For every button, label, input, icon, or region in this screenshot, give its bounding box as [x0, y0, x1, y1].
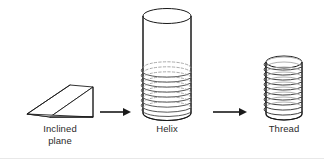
label-inclined-plane: Inclined plane — [12, 123, 108, 146]
thread-body — [266, 62, 302, 120]
thread-figure — [264, 56, 302, 120]
helix-figure — [141, 9, 191, 121]
diagram-canvas: Inclined plane Helix Thread — [0, 0, 324, 159]
label-thread: Thread — [246, 123, 322, 135]
arrow-1-head — [123, 108, 131, 116]
cylinder-top-rim — [143, 9, 191, 24]
label-helix: Helix — [126, 123, 208, 135]
inclined-plane-figure — [27, 85, 93, 117]
arrow-2 — [213, 108, 247, 116]
arrow-1 — [100, 108, 131, 116]
arrow-2-head — [239, 108, 247, 116]
